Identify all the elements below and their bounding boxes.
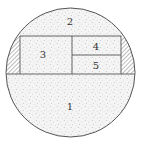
region-label-3: 3 [40,49,46,60]
hatched-area-left [0,36,20,74]
region-label-5: 5 [93,60,99,71]
diagram-canvas: 2 3 4 5 1 [0,0,141,143]
region-label-1: 1 [67,101,73,112]
hatched-area-right [121,36,141,74]
region-label-4: 4 [93,41,99,52]
circle-partition-diagram: 2 3 4 5 1 [0,0,141,143]
region-label-2: 2 [67,16,73,27]
